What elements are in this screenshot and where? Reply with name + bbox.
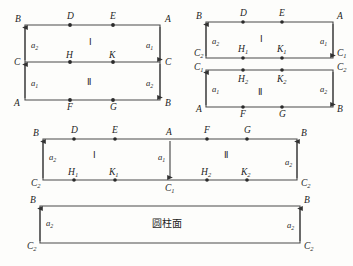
topology-figure: B A C C A B D E H K F G Ⅰ Ⅱ a2 a1 a1 a2 [0, 0, 353, 266]
label-point-H1: H1 [237, 44, 248, 55]
vertex-H [68, 60, 72, 64]
vertex-K2 [280, 68, 284, 72]
label-corner-bottom-right: B [165, 98, 171, 108]
label-point-D: D [239, 8, 247, 18]
label-corner-top-left: B [15, 14, 21, 24]
vertex-E [280, 20, 284, 24]
label-point-F: F [66, 102, 73, 112]
label-arrow-upper-left: a2 [212, 36, 219, 47]
rect-upper-outline [206, 22, 333, 58]
label-upper-bottom-right: C1 [337, 48, 347, 59]
label-corner-mid-right: C [165, 57, 172, 67]
panel-top-left: B A C C A B D E H K F G Ⅰ Ⅱ a2 a1 a1 a2 [13, 11, 172, 112]
label-arrow-left: a2 [49, 152, 56, 163]
label-point-H2: H2 [237, 74, 249, 85]
label-point-F: F [203, 125, 210, 135]
vertex-H2 [205, 178, 209, 182]
vertex-K [111, 60, 115, 64]
label-region-I: Ⅰ [89, 37, 92, 47]
vertex-H2 [241, 68, 245, 72]
vertex-D [68, 23, 72, 27]
label-point-D: D [66, 11, 74, 21]
label-point-H2: H2 [200, 167, 212, 178]
label-region-I: Ⅰ [260, 34, 263, 44]
label-arrow-right: a2 [285, 157, 292, 168]
label-upper-top-left: B [196, 11, 202, 21]
label-arrow-left: a2 [46, 218, 53, 229]
label-cylinder-surface: 圆柱面 [152, 217, 182, 229]
label-top-right: B [304, 195, 310, 205]
label-region-II: Ⅱ [258, 87, 262, 97]
label-point-H: H [65, 50, 74, 60]
label-point-K2: K2 [276, 74, 287, 85]
label-point-E: E [278, 8, 285, 18]
label-arrow-lower-left: a1 [212, 84, 219, 95]
label-point-K1: K1 [276, 44, 287, 55]
vertex-E [111, 23, 115, 27]
label-arrow-right-upper: a1 [146, 40, 153, 51]
label-lower-top-right: C2 [337, 62, 347, 73]
vertex-G [245, 137, 249, 141]
label-region-II: Ⅱ [87, 77, 91, 87]
label-lower-bottom-right: B [337, 104, 343, 114]
vertex-D [72, 137, 76, 141]
label-arrow-right: a2 [287, 220, 294, 231]
vertex-H1 [72, 178, 76, 182]
label-arrow-right-lower: a2 [146, 78, 153, 89]
label-point-G: G [244, 125, 251, 135]
label-point-K1: K1 [108, 167, 119, 178]
label-point-K: K [108, 50, 116, 60]
label-bottom-right: C2 [304, 241, 314, 252]
rect-lower-outline [206, 70, 333, 107]
label-point-E: E [111, 125, 118, 135]
label-upper-bottom-left: C2 [194, 48, 204, 59]
label-region-II: Ⅱ [224, 150, 228, 160]
label-lower-top-left: C1 [194, 62, 204, 73]
label-corner-mid-left: C [14, 57, 21, 67]
label-arrow-upper-right: a1 [320, 36, 327, 47]
label-bottom-right: C2 [301, 178, 311, 189]
label-bottom-left: C2 [27, 241, 37, 252]
vertex-K1 [113, 178, 117, 182]
panel-middle: B A B C2 C1 C2 D E F G H1 K1 H2 K2 Ⅰ Ⅱ a… [31, 125, 311, 194]
label-arrow-center: a1 [158, 152, 165, 163]
vertex-K2 [245, 178, 249, 182]
label-top-right: B [301, 128, 307, 138]
label-lower-bottom-left: A [195, 104, 202, 114]
vertex-D [241, 20, 245, 24]
panel-bottom: B B C2 C2 a2 a2 圆柱面 [27, 195, 314, 252]
label-point-G: G [110, 102, 117, 112]
label-point-F: F [239, 109, 246, 119]
figure-canvas: B A C C A B D E H K F G Ⅰ Ⅱ a2 a1 a1 a2 [0, 0, 353, 266]
vertex-K1 [280, 56, 284, 60]
label-corner-bottom-left: A [13, 98, 20, 108]
label-corner-top-right: A [164, 14, 171, 24]
label-point-K2: K2 [240, 167, 251, 178]
label-arrow-left-upper: a2 [31, 40, 38, 51]
vertex-F [205, 137, 209, 141]
label-top-left: B [30, 195, 36, 205]
label-top-mid: A [165, 127, 172, 137]
label-upper-top-right: A [336, 11, 343, 21]
label-point-H1: H1 [67, 167, 78, 178]
panel-top-right: B A C2 C1 D E H1 K1 Ⅰ a2 a1 C1 C2 A B H2… [194, 8, 347, 119]
label-point-E: E [109, 11, 116, 21]
label-point-G: G [279, 109, 286, 119]
label-arrow-lower-right: a2 [320, 84, 327, 95]
label-arrow-left-lower: a1 [31, 78, 38, 89]
vertex-E [113, 137, 117, 141]
label-top-left: B [33, 128, 39, 138]
label-point-D: D [70, 125, 78, 135]
vertex-H1 [241, 56, 245, 60]
label-region-I: Ⅰ [93, 150, 96, 160]
label-bottom-left: C2 [31, 178, 41, 189]
label-bottom-mid: C1 [165, 183, 175, 194]
